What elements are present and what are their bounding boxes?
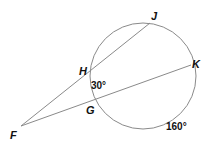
- label-g: G: [86, 104, 95, 116]
- label-f: F: [10, 129, 17, 141]
- arc-hg-measure: 30°: [91, 80, 106, 91]
- diagram-canvas: J H K G F 30° 160°: [0, 0, 207, 148]
- arc-gk-measure: 160°: [166, 121, 187, 132]
- label-h: H: [79, 65, 88, 77]
- label-j: J: [151, 10, 158, 22]
- secant-fk: [21, 65, 191, 126]
- label-k: K: [192, 58, 201, 70]
- circle: [90, 23, 196, 129]
